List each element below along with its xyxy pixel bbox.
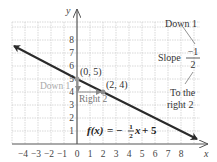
- callout-down-1: Down 1: [165, 18, 197, 29]
- function-label: f(x) = − 1 2 x + 5: [87, 123, 157, 140]
- callout-line-down: [183, 27, 195, 44]
- svg-text:1: 1: [129, 123, 133, 131]
- svg-text:1: 1: [88, 149, 93, 159]
- callout-right-2: right 2: [167, 99, 193, 110]
- svg-text:−4: −4: [18, 149, 28, 159]
- svg-text:3: 3: [114, 149, 119, 159]
- right-2-label: Right 2: [79, 94, 107, 104]
- svg-text:2: 2: [101, 149, 106, 159]
- svg-text:2: 2: [69, 113, 74, 123]
- svg-text:+ 5: + 5: [142, 124, 157, 136]
- svg-text:f(x): f(x): [87, 124, 104, 137]
- svg-text:2: 2: [129, 132, 133, 140]
- point-label-2-4: (2, 4): [106, 79, 128, 91]
- svg-text:3: 3: [69, 100, 74, 110]
- svg-text:x: x: [134, 124, 141, 136]
- callout-slope-word: Slope: [158, 52, 181, 63]
- svg-text:4: 4: [127, 149, 132, 159]
- svg-text:−2: −2: [44, 149, 54, 159]
- svg-text:−1: −1: [57, 149, 67, 159]
- svg-text:7: 7: [69, 48, 74, 58]
- svg-text:1: 1: [69, 126, 74, 136]
- chart-canvas: −4 −3 −2 −1 0 1 2 3 4 5 6 7 8 1 2 3 4 5 …: [0, 0, 217, 162]
- down-1-label: Down 1: [40, 81, 71, 91]
- svg-text:0: 0: [75, 149, 80, 159]
- svg-text:8: 8: [69, 35, 74, 45]
- svg-text:6: 6: [69, 61, 74, 71]
- function-line: [14, 46, 77, 79]
- callout-slope-den: 2: [191, 59, 196, 70]
- function-label-eq: = −: [107, 124, 122, 136]
- svg-text:6: 6: [153, 149, 158, 159]
- point-label-0-5: (0, 5): [80, 66, 102, 78]
- svg-text:7: 7: [166, 149, 171, 159]
- svg-text:8: 8: [179, 149, 184, 159]
- callout-to-the: To the: [170, 87, 196, 98]
- y-axis-label: y: [65, 5, 71, 16]
- callout-slope-num: −1: [188, 46, 199, 57]
- x-tick-labels: −4 −3 −2 −1 0 1 2 3 4 5 6 7 8: [18, 149, 184, 159]
- callout-line-right: [185, 72, 193, 84]
- x-axis-label: x: [203, 148, 209, 159]
- svg-text:5: 5: [140, 149, 145, 159]
- svg-text:−3: −3: [31, 149, 41, 159]
- point-0-5: [75, 77, 80, 82]
